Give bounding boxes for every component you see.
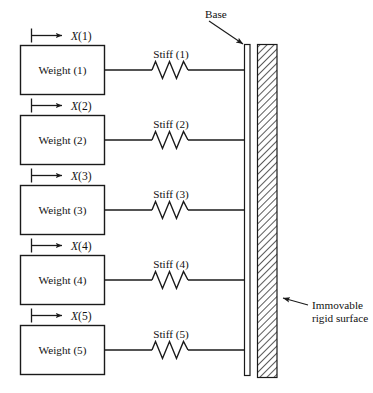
displacement-index-3: (3)	[78, 170, 92, 183]
spring-4	[152, 272, 188, 289]
stiff-label-1: Stiff (1)	[153, 48, 189, 61]
spring-2	[152, 132, 188, 149]
mass-spring-unit-5	[21, 309, 245, 375]
mass-spring-unit-4	[21, 239, 245, 305]
base-callout-leader	[209, 21, 243, 44]
displacement-index-1: (1)	[78, 30, 92, 43]
weight-label-1: Weight (1)	[39, 64, 87, 77]
weight-label-3: Weight (3)	[39, 204, 87, 217]
displacement-label-3: X(3)	[70, 170, 92, 183]
displacement-label-1: X(1)	[70, 30, 92, 43]
displacement-index-5: (5)	[78, 310, 92, 323]
displacement-label-4: X(4)	[70, 240, 92, 253]
mass-spring-unit-2	[21, 99, 245, 165]
mass-spring-unit-3	[21, 169, 245, 235]
spring-1	[152, 62, 188, 79]
surface-callout-label-line1: Immovable	[312, 299, 363, 311]
displacement-label-5: X(5)	[70, 310, 92, 323]
stiff-label-5: Stiff (5)	[153, 328, 189, 341]
weight-label-5: Weight (5)	[39, 344, 87, 357]
base-bar	[245, 45, 251, 376]
surface-callout-label-line2: rigid surface	[312, 312, 368, 324]
displacement-index-4: (4)	[78, 240, 92, 253]
stiff-label-4: Stiff (4)	[153, 258, 189, 271]
immovable-rigid-surface	[258, 45, 278, 378]
base-callout-label: Base	[205, 8, 227, 20]
mass-spring-unit-1	[21, 29, 245, 95]
spring-5	[152, 342, 188, 359]
spring-3	[152, 202, 188, 219]
surface-callout-leader	[283, 298, 308, 305]
displacement-index-2: (2)	[78, 100, 92, 113]
displacement-label-2: X(2)	[70, 100, 92, 113]
stiff-label-3: Stiff (3)	[153, 188, 189, 201]
diagram-canvas: Weight (1) Weight (2) Weight (3) Weight …	[0, 0, 373, 393]
weight-label-4: Weight (4)	[39, 274, 87, 287]
mass-spring-diagram: Weight (1) Weight (2) Weight (3) Weight …	[0, 0, 373, 393]
stiff-label-2: Stiff (2)	[153, 118, 189, 131]
weight-label-2: Weight (2)	[39, 134, 87, 147]
